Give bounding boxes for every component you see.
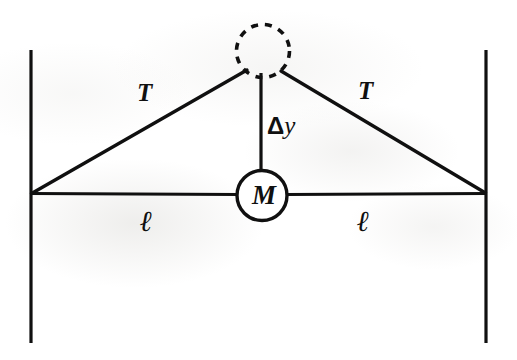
tension-label-left: T <box>137 80 152 105</box>
delta-symbol: Δ <box>267 112 284 139</box>
equilibrium-wire-right-segment <box>287 194 486 195</box>
displacement-axis-symbol: y <box>284 112 295 139</box>
physics-diagram-figure: T T ℓ ℓ M Δy <box>0 0 517 360</box>
ghost-position-dashed-circle <box>237 25 290 78</box>
equilibrium-wire-left-segment <box>31 194 238 195</box>
length-label-right: ℓ <box>357 207 369 236</box>
tension-label-right: T <box>358 78 373 103</box>
displacement-label: Δy <box>267 113 295 138</box>
length-label-left: ℓ <box>140 207 152 236</box>
mass-label: M <box>252 182 276 209</box>
tension-wire-right-segment <box>281 71 486 193</box>
